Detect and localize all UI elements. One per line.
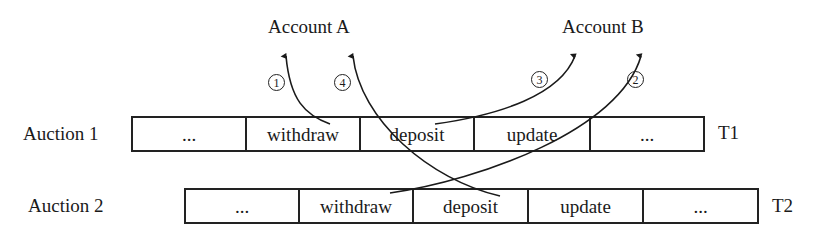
auction-1-label: Auction 1 xyxy=(23,124,98,143)
account-a-label: Account A xyxy=(268,17,350,36)
thread-t2-label: T2 xyxy=(772,196,793,215)
step-2-marker: 2 xyxy=(627,71,644,88)
t1-cell-ellipsis-end: ... xyxy=(591,118,703,150)
arrow-1 xyxy=(286,56,330,124)
t2-cell-withdraw: withdraw xyxy=(300,190,414,222)
transaction-t1-row: ... withdraw deposit update ... xyxy=(131,116,705,152)
auction-conflict-diagram: Account A Account B Auction 1 Auction 2 … xyxy=(0,0,815,237)
step-4-marker: 4 xyxy=(334,74,351,91)
t2-cell-ellipsis-start: ... xyxy=(186,190,300,222)
t2-cell-deposit: deposit xyxy=(414,190,529,222)
account-b-label: Account B xyxy=(562,17,644,36)
t2-cell-update: update xyxy=(529,190,644,222)
step-3-marker: 3 xyxy=(531,71,548,88)
thread-t1-label: T1 xyxy=(718,123,739,142)
t1-cell-withdraw: withdraw xyxy=(247,118,361,150)
transaction-t2-row: ... withdraw deposit update ... xyxy=(184,188,759,224)
auction-2-label: Auction 2 xyxy=(28,196,103,215)
t1-cell-update: update xyxy=(475,118,591,150)
t1-cell-deposit: deposit xyxy=(361,118,475,150)
arrow-3 xyxy=(435,56,575,124)
step-1-marker: 1 xyxy=(268,74,285,91)
t1-cell-ellipsis-start: ... xyxy=(133,118,247,150)
t2-cell-ellipsis-end: ... xyxy=(644,190,757,222)
